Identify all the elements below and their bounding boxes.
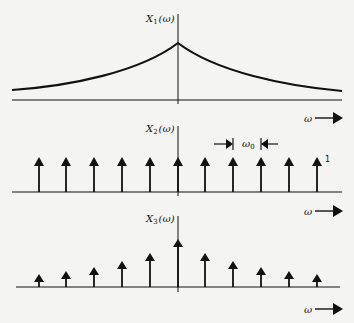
impulse [34,157,44,192]
impulse [145,157,155,192]
panel-x3: X3(ω) ω [16,213,343,315]
impulse [173,239,183,287]
diagram-canvas: X1(ω) ω X2(ω) 1 [0,0,354,323]
x2-omega-label: ω [304,206,312,217]
impulse [145,253,155,287]
x3-omega-arrow-icon [315,303,343,315]
impulse [117,157,127,192]
impulse [200,157,210,192]
x3-label: X3(ω) [145,213,175,226]
x2-impulses [34,157,322,192]
x1-omega-arrow-icon [315,112,343,124]
x1-curve [12,43,342,91]
impulse [89,157,99,192]
svg-text:ω0: ω0 [242,138,255,151]
impulse [200,253,210,287]
panel-x1: X1(ω) ω [12,13,343,124]
x2-label: X2(ω) [145,123,175,136]
x2-spacing-dimension: ω0 [214,138,278,151]
impulse [89,267,99,287]
impulse [61,157,71,192]
impulse [61,271,71,287]
impulse [256,267,266,287]
impulse [228,157,238,192]
x3-impulses [34,239,322,287]
x1-label: X1(ω) [145,13,175,26]
panel-x2: X2(ω) 1 ω0 ω [12,123,343,217]
x3-omega-label: ω [304,304,312,315]
impulse [284,157,294,192]
impulse [312,157,322,192]
impulse [256,157,266,192]
impulse [117,261,127,287]
x2-impulse-height-label: 1 [325,155,330,164]
impulse [284,271,294,287]
x1-omega-label: ω [304,113,312,124]
impulse [228,261,238,287]
impulse [34,274,44,287]
impulse [312,274,322,287]
x2-omega-arrow-icon [315,205,343,217]
impulse [173,157,183,192]
